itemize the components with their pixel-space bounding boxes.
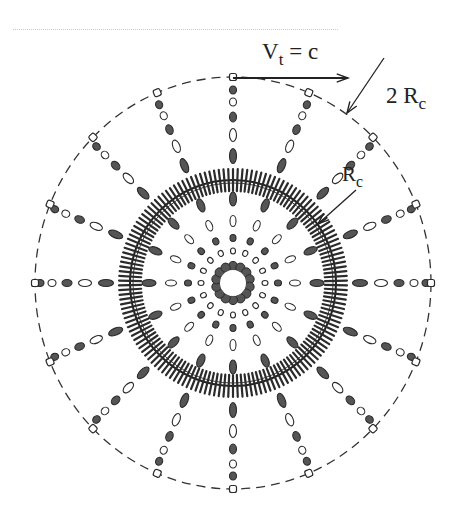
spoke	[230, 312, 237, 493]
comb-radius-label: Rc	[342, 164, 363, 189]
wheel-diagram	[0, 0, 470, 526]
inner-bead-ring	[212, 261, 254, 304]
outer-radius-label: 2 Rc	[386, 84, 426, 112]
velocity-label: Vt = c	[262, 40, 318, 68]
spoke	[230, 74, 237, 255]
annotation-arrows	[233, 58, 384, 224]
spoke	[262, 280, 435, 287]
spoke	[32, 280, 205, 287]
